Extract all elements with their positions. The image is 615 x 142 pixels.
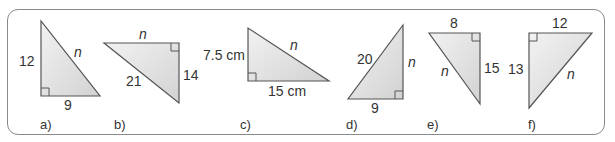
caption: b) [114, 117, 126, 132]
label-vertical: 12 [19, 53, 35, 69]
label-hypotenuse: n [441, 63, 449, 79]
label-horizontal: 8 [450, 15, 458, 31]
label-hypotenuse: 20 [357, 51, 373, 67]
label-horizontal: 12 [552, 15, 568, 31]
label-hypotenuse: 21 [126, 73, 142, 89]
caption: c) [240, 117, 251, 132]
triangle-f: 12 13 n f) [508, 15, 592, 132]
label-vertical: 7.5 cm [203, 47, 245, 63]
caption: f) [528, 117, 536, 132]
label-horizontal: 9 [371, 100, 379, 116]
label-vertical: 15 [484, 60, 500, 76]
label-hypotenuse: n [74, 44, 82, 60]
triangle-e: 8 15 n e) [427, 15, 500, 132]
triangle-b: n 14 21 b) [104, 26, 199, 132]
triangle-d: 20 n 9 d) [346, 25, 416, 132]
caption: a) [40, 117, 52, 132]
label-vertical: 13 [508, 61, 524, 77]
label-hypotenuse: n [290, 37, 298, 53]
triangle-a: 12 9 n a) [19, 21, 100, 132]
triangle-c: 7.5 cm 15 cm n c) [203, 28, 329, 132]
caption: d) [346, 117, 358, 132]
label-vertical: n [408, 54, 416, 70]
label-hypotenuse: n [567, 66, 575, 82]
label-horizontal: n [139, 26, 147, 42]
label-horizontal: 9 [64, 97, 72, 113]
caption: e) [427, 117, 439, 132]
label-vertical: 14 [183, 67, 199, 83]
label-horizontal: 15 cm [268, 83, 306, 99]
triangles-diagram: 12 9 n a) n 14 21 b) 7.5 cm 15 cm n c) 2… [0, 0, 615, 142]
